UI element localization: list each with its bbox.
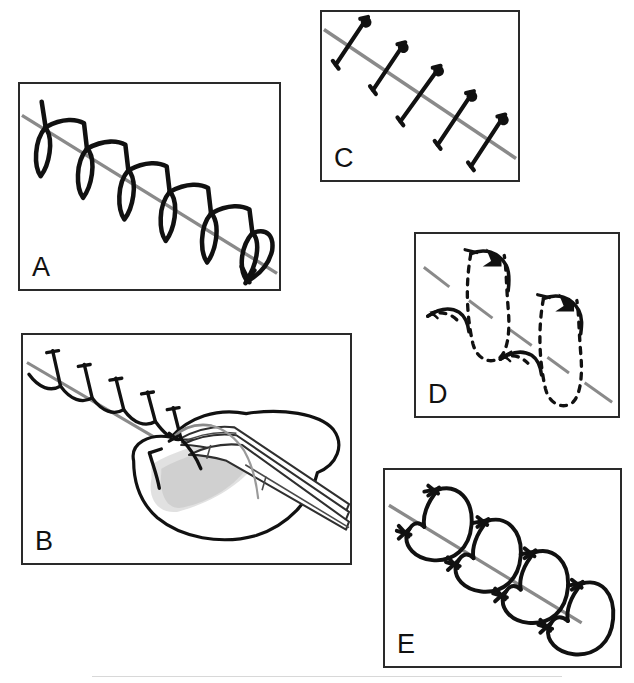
panel-c-simple-interrupted-suture: C [320, 10, 520, 182]
panel-label-e: E [397, 631, 415, 658]
interrupted-stitch [397, 66, 441, 126]
incision-line-segments [424, 267, 612, 402]
panel-b-illustration [23, 335, 350, 563]
interrupted-stitch [435, 91, 476, 149]
interrupted-sutures-group [333, 17, 507, 170]
interrupted-stitch [468, 115, 507, 171]
figure-root: A [0, 0, 634, 683]
panel-a-illustration [20, 84, 279, 289]
cruciate-sutures-group [397, 486, 614, 655]
panel-e-illustration [385, 470, 620, 666]
panel-label-b: B [35, 528, 53, 555]
interrupted-stitch [333, 17, 370, 69]
buried-suture-loops [428, 254, 582, 406]
panel-label-a: A [32, 254, 50, 281]
bottom-edge-artifact [92, 676, 562, 677]
panel-e-cruciate-mattress-suture: E [383, 468, 622, 668]
panel-d-buried-subcuticular-suture: D [414, 232, 620, 418]
panel-label-c: C [334, 145, 354, 172]
interrupted-stitch [370, 42, 407, 94]
panel-label-d: D [428, 381, 448, 408]
panel-a-continuous-running-suture: A [18, 82, 281, 291]
suture-strand-group [36, 102, 272, 283]
panel-b-continuous-suture-with-forceps: B [21, 333, 352, 565]
direction-arrowheads [430, 252, 573, 362]
incision-line [22, 115, 277, 273]
